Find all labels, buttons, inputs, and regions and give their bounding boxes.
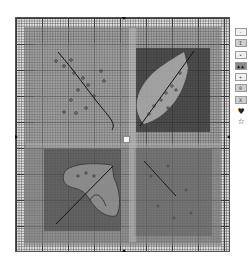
star-icon: ☆ (235, 117, 247, 127)
legend-swatch-circles: 0 0 (235, 84, 247, 92)
heart-icon: ♥ (235, 107, 247, 117)
dots-top-left (55, 59, 106, 115)
center-marker-right (227, 135, 230, 139)
center-marker-bottom (122, 249, 126, 252)
legend-swatch-triangles: ▲▲ (235, 62, 247, 70)
center-marker-top (122, 17, 126, 20)
stitch-chart (15, 17, 230, 252)
legend-swatch-cross: X X (235, 96, 247, 104)
center-point (123, 136, 130, 143)
legend-swatch-dash: - - (235, 28, 247, 36)
legend-swatch-plus: + + (235, 73, 247, 81)
legend-swatch-dots: • • (235, 51, 247, 59)
center-marker-left (15, 135, 18, 139)
legend-swatch-bars: I I (235, 39, 247, 47)
symbol-legend: - - I I • • ▲▲ + + 0 0 X X ♥ ☆ (235, 28, 247, 127)
dots-bottom-right (150, 165, 192, 219)
